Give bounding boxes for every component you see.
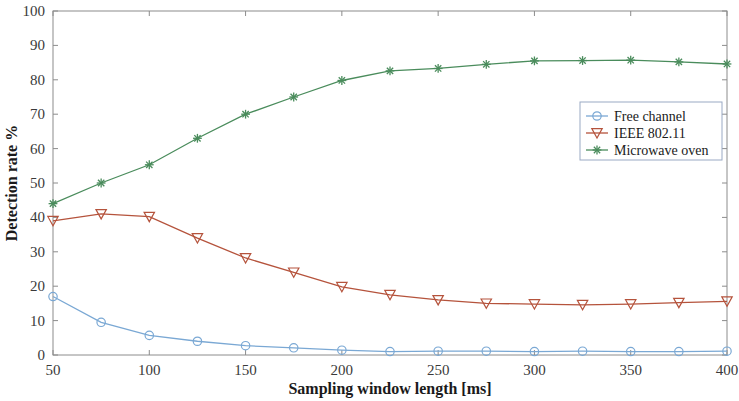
legend-label: IEEE 802.11 — [614, 126, 686, 141]
x-tick-label: 300 — [523, 362, 546, 378]
y-tick-label: 40 — [30, 209, 45, 225]
series-1 — [49, 292, 731, 355]
y-tick-label: 70 — [30, 106, 45, 122]
x-tick-label: 50 — [46, 362, 61, 378]
series-group — [48, 56, 732, 356]
x-tick-label: 100 — [138, 362, 161, 378]
y-tick-label: 20 — [30, 278, 45, 294]
y-tick-label: 0 — [38, 347, 46, 363]
y-axis-label: Detection rate % — [3, 125, 20, 241]
x-tick-label: 150 — [234, 362, 257, 378]
y-tick-label: 90 — [30, 37, 45, 53]
legend-label: Microwave oven — [614, 143, 708, 158]
chart-canvas: 0102030405060708090100501001502002503003… — [0, 0, 739, 401]
y-tick-label: 50 — [30, 175, 45, 191]
y-tick-label: 60 — [30, 141, 45, 157]
x-axis-label: Sampling window length [ms] — [288, 380, 491, 398]
series-line — [53, 214, 727, 305]
y-tick-label: 100 — [23, 3, 46, 19]
series-2 — [48, 210, 732, 310]
y-tick-label: 80 — [30, 72, 45, 88]
x-tick-label: 250 — [427, 362, 450, 378]
legend-group[interactable]: Free channelIEEE 802.11Microwave oven — [580, 102, 722, 160]
chart-figure: 0102030405060708090100501001502002503003… — [0, 0, 739, 401]
x-tick-label: 350 — [619, 362, 642, 378]
plot-frame — [53, 11, 727, 355]
y-tick-label: 30 — [30, 244, 45, 260]
y-tick-label: 10 — [30, 313, 45, 329]
legend-label: Free channel — [614, 109, 686, 124]
x-tick-label: 200 — [331, 362, 354, 378]
x-tick-label: 400 — [716, 362, 739, 378]
